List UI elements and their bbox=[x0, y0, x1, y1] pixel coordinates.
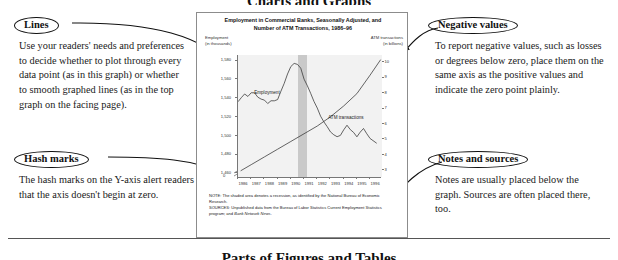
x-tick-mark bbox=[329, 177, 330, 179]
callout-hash-marks-title: Hash marks bbox=[14, 151, 89, 168]
figure-notes: NOTE: The shaded area denotes a recessio… bbox=[209, 193, 399, 217]
left-tick-label: 1,540 bbox=[207, 95, 231, 100]
x-tick-mark bbox=[343, 177, 344, 179]
figure-title: Employment in Commercial Banks, Seasonal… bbox=[201, 16, 405, 32]
figure-title-line1: Employment in Commercial Banks, Seasonal… bbox=[225, 17, 382, 23]
callout-lines-title: Lines bbox=[14, 17, 59, 34]
left-axis-label-line2: (in thousands) bbox=[205, 41, 232, 46]
left-tick-label: 1,500 bbox=[207, 133, 231, 138]
left-tick-label: 1,580 bbox=[207, 57, 231, 62]
page-heading-partial: Charts and Graphs bbox=[0, 0, 618, 5]
callout-notes-and-sources-title: Notes and sources bbox=[428, 151, 528, 168]
textbook-page: Charts and Graphs Lines Use your readers… bbox=[0, 0, 618, 260]
figure-note: NOTE: The shaded area denotes a recessio… bbox=[209, 193, 399, 205]
right-tick-label: 8 bbox=[385, 90, 399, 95]
right-tick-label: 3 bbox=[385, 167, 399, 172]
series-line-employment bbox=[238, 63, 377, 143]
page-footer-partial: Parts of Figures and Tables bbox=[0, 250, 618, 260]
callout-notes-and-sources: Notes and sources Notes are usually plac… bbox=[428, 148, 604, 217]
figure-title-line2: Number of ATM Transactions, 1986–96 bbox=[254, 25, 352, 31]
right-tick-label: 7 bbox=[385, 105, 399, 110]
right-tick-label: 6 bbox=[385, 121, 399, 126]
callout-negative-values-title: Negative values bbox=[428, 17, 518, 34]
x-tick-label: 1996 bbox=[367, 181, 383, 186]
x-tick-mark bbox=[356, 177, 357, 179]
right-tick-label: 10 bbox=[385, 59, 399, 64]
x-tick-mark bbox=[316, 177, 317, 179]
figure-sources-end: . bbox=[271, 211, 272, 216]
x-tick-mark bbox=[303, 177, 304, 179]
left-tick-label: 1,560 bbox=[207, 76, 231, 81]
right-tick-label: 9 bbox=[385, 74, 399, 79]
callout-notes-and-sources-body: Notes are usually placed below the graph… bbox=[428, 173, 604, 217]
page-divider bbox=[8, 238, 610, 239]
callout-lines: Lines Use your readers' needs and prefer… bbox=[14, 14, 189, 112]
x-tick-mark bbox=[277, 177, 278, 179]
callout-lines-body: Use your readers' needs and preferences … bbox=[14, 39, 189, 112]
x-tick-mark bbox=[369, 177, 370, 179]
series-label-employment: Employment bbox=[254, 90, 280, 95]
x-axis-line bbox=[237, 177, 381, 178]
callout-negative-values: Negative values To report negative value… bbox=[428, 14, 604, 98]
x-tick-mark bbox=[237, 177, 238, 179]
right-axis-label: ATM transactions (in billions) bbox=[371, 35, 403, 46]
callout-hash-marks: Hash marks The hash marks on the Y-axis … bbox=[14, 148, 200, 202]
x-tick-mark bbox=[263, 177, 264, 179]
callout-hash-marks-body: The hash marks on the Y-axis alert reade… bbox=[14, 173, 200, 202]
right-tick-label: 5 bbox=[385, 136, 399, 141]
zero-tick-label: 0 bbox=[223, 173, 225, 178]
left-tick-label: 1,460 bbox=[207, 170, 231, 175]
left-tick-label: 1,520 bbox=[207, 114, 231, 119]
right-tick-label: 4 bbox=[385, 152, 399, 157]
right-axis-label-line1: ATM transactions bbox=[371, 35, 403, 40]
right-axis-label-line2: (in billions) bbox=[383, 41, 403, 46]
series-label-atm-transactions: ATM transactions bbox=[328, 115, 363, 120]
left-axis-label-line1: Employment bbox=[205, 35, 228, 40]
left-axis-label: Employment (in thousands) bbox=[205, 35, 232, 46]
callout-negative-values-body: To report negative values, such as losse… bbox=[428, 39, 604, 97]
figure-sources: SOURCES: Unpublished data from the Burea… bbox=[209, 205, 399, 217]
x-tick-mark bbox=[250, 177, 251, 179]
x-tick-mark bbox=[290, 177, 291, 179]
left-tick-label: 1,480 bbox=[207, 151, 231, 156]
figure-sources-publication: Bank Network News bbox=[234, 211, 270, 216]
figure-panel: Employment in Commercial Banks, Seasonal… bbox=[196, 12, 408, 238]
